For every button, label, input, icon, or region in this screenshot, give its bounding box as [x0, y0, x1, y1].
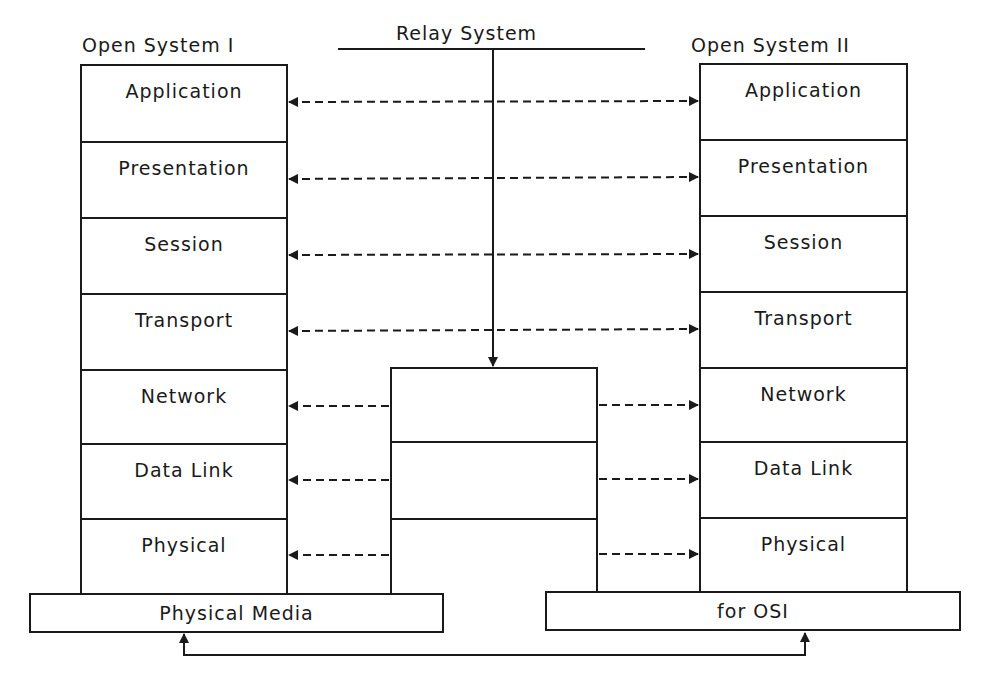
media-link-to-left	[184, 634, 805, 655]
connector-overlay	[0, 0, 991, 680]
